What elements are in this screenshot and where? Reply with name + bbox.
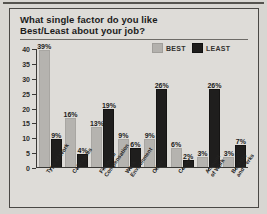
y-axis-tick <box>32 138 36 139</box>
bar-value-label: 26% <box>207 82 221 89</box>
y-axis-tick-label: 0 <box>26 165 30 172</box>
title-divider <box>20 39 248 40</box>
y-axis-tick-label: 10 <box>22 135 30 142</box>
y-axis-tick <box>32 94 36 95</box>
bar-value-label: 3% <box>224 150 234 157</box>
y-axis-tick <box>32 79 36 80</box>
y-axis-tick <box>32 64 36 65</box>
title-line-2: Best/Least about your job? <box>20 25 220 36</box>
bar-value-label: 26% <box>155 82 169 89</box>
y-axis-tick <box>32 123 36 124</box>
bar-least: 26% <box>156 89 167 167</box>
bar-group: 3%26% <box>195 49 221 167</box>
y-axis-tick-label: 5 <box>26 150 30 157</box>
bar-value-label: 16% <box>64 111 78 118</box>
title-line-1: What single factor do you like <box>20 14 220 25</box>
x-axis-labels: Type of WorkColleaguesFinancialCompensat… <box>37 169 249 214</box>
bar-value-label: 7% <box>236 138 246 145</box>
bar-value-label: 9% <box>145 132 155 139</box>
y-axis-tick-label: 35 <box>22 60 30 67</box>
bar-best: 13% <box>91 127 102 167</box>
bar-value-label: 6% <box>130 141 140 148</box>
y-axis-tick <box>32 168 36 169</box>
bar-value-label: 3% <box>197 150 207 157</box>
bar-value-label: 9% <box>51 132 61 139</box>
y-axis-tick <box>32 49 36 50</box>
bar-best: 6% <box>171 148 182 167</box>
y-axis-tick-label: 25 <box>22 90 30 97</box>
y-axis-tick-label: 40 <box>22 46 30 53</box>
y-axis-tick-label: 30 <box>22 75 30 82</box>
chart-panel: What single factor do you like Best/Leas… <box>9 8 259 208</box>
bar-group: 6%2% <box>169 49 195 167</box>
page-title: What single factor do you like Best/Leas… <box>20 14 220 36</box>
bar-best: 39% <box>39 50 50 167</box>
bar-value-label: 19% <box>102 102 116 109</box>
y-axis-tick-label: 15 <box>22 120 30 127</box>
bar-value-label: 39% <box>37 43 51 50</box>
chart-screenshot: What single factor do you like Best/Leas… <box>0 0 267 214</box>
top-divider-rule <box>3 2 264 4</box>
bar-value-label: 6% <box>171 141 181 148</box>
y-axis-tick-label: 20 <box>22 105 30 112</box>
bar-value-label: 13% <box>90 120 104 127</box>
y-axis-tick <box>32 153 36 154</box>
y-axis-tick <box>32 109 36 110</box>
